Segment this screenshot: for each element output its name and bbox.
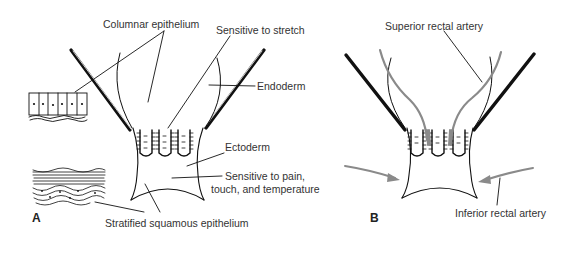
anal-canal-diagram: Columnar epithelium Sensitive to stretch… bbox=[0, 0, 571, 265]
label-superior-rectal-artery: Superior rectal artery bbox=[385, 20, 483, 32]
label-stratified-squamous-epithelium: Stratified squamous epithelium bbox=[105, 217, 249, 229]
label-inferior-rectal-artery: Inferior rectal artery bbox=[455, 207, 546, 219]
label-sensitive-to-pain-line2: touch, and temperature bbox=[211, 183, 320, 195]
label-sensitive-to-stretch: Sensitive to stretch bbox=[216, 24, 305, 36]
label-endoderm: Endoderm bbox=[257, 80, 305, 92]
label-columnar-epithelium: Columnar epithelium bbox=[103, 18, 199, 30]
panel-b-letter: B bbox=[370, 211, 379, 225]
label-ectoderm: Ectoderm bbox=[225, 141, 270, 153]
label-sensitive-to-pain-line1: Sensitive to pain, bbox=[225, 170, 305, 182]
panel-a-letter: A bbox=[32, 211, 41, 225]
diagram-drawing bbox=[0, 0, 571, 265]
panel-b-drawing bbox=[345, 31, 534, 205]
